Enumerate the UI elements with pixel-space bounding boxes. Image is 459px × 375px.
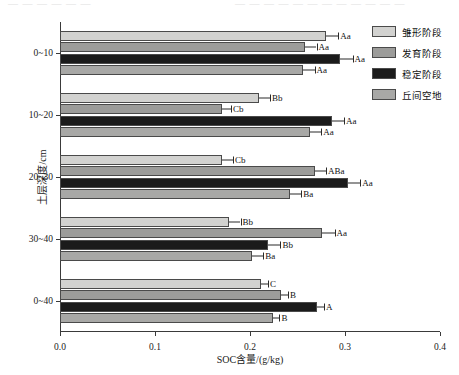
x-tick	[60, 332, 61, 336]
error-bar	[340, 58, 352, 59]
bar-2	[60, 302, 317, 312]
significance-letter: Cb	[235, 155, 246, 165]
x-tick	[155, 332, 156, 336]
soc-bar-chart: — — — — — — — — — — — — — — — — — — 0.00…	[0, 0, 459, 375]
significance-letter: C	[270, 279, 276, 289]
error-bar-cap	[241, 218, 242, 225]
error-bar-cap	[321, 129, 322, 136]
x-tick-label: 0.3	[339, 342, 351, 352]
error-bar-cap	[233, 156, 234, 163]
error-bar	[305, 47, 316, 48]
bar-1	[60, 228, 322, 238]
bar-row: A	[60, 302, 440, 312]
error-bar-cap	[344, 117, 345, 124]
bar-row: C	[60, 279, 440, 289]
error-bar-cap	[335, 230, 336, 237]
significance-letter: Aa	[355, 54, 366, 64]
bar-row: B	[60, 290, 440, 300]
bar-3	[60, 65, 303, 75]
error-bar-cap	[288, 292, 289, 299]
error-bar-cap	[324, 303, 325, 310]
error-bar	[222, 109, 232, 110]
significance-letter: Aa	[337, 228, 348, 238]
bar-2	[60, 54, 340, 64]
bar-1	[60, 290, 281, 300]
error-bar-cap	[280, 241, 281, 248]
legend-item[interactable]: 丘间空地	[372, 85, 458, 104]
bar-row: Ba	[60, 251, 440, 261]
x-tick-label: 0.1	[149, 342, 161, 352]
y-axis-title: 土层深度/cm	[34, 150, 49, 205]
chart-legend: 雏形阶段发育阶段稳定阶段丘间空地	[372, 22, 458, 106]
legend-swatch-3	[372, 89, 396, 100]
bar-0	[60, 279, 261, 289]
legend-swatch-1	[372, 47, 396, 58]
bar-row: Cb	[60, 155, 440, 165]
x-tick	[250, 332, 251, 336]
bar-2	[60, 116, 332, 126]
bar-row: Aa	[60, 178, 440, 188]
error-bar-cap	[317, 44, 318, 51]
legend-item[interactable]: 发育阶段	[372, 43, 458, 62]
error-bar	[317, 306, 324, 307]
x-tick-label: 0.0	[54, 342, 66, 352]
significance-letter: Ba	[303, 189, 313, 199]
significance-letter: A	[326, 302, 333, 312]
error-bar	[281, 295, 288, 296]
error-bar	[310, 132, 321, 133]
significance-letter: Aa	[319, 42, 330, 52]
x-axis-title: SOC含量/(g/kg)	[217, 351, 284, 366]
error-bar-cap	[301, 191, 302, 198]
error-bar	[322, 233, 334, 234]
bar-1	[60, 166, 315, 176]
legend-item[interactable]: 稳定阶段	[372, 64, 458, 83]
error-bar	[222, 159, 233, 160]
significance-letter: B	[290, 290, 296, 300]
bar-3	[60, 127, 310, 137]
error-bar-cap	[338, 32, 339, 39]
x-tick-label: 0.4	[434, 342, 446, 352]
y-category-label: 0~10	[34, 48, 53, 58]
error-bar-cap	[326, 168, 327, 175]
error-bar	[290, 194, 301, 195]
significance-letter: Bb	[282, 240, 293, 250]
bar-2	[60, 178, 348, 188]
significance-letter: Aa	[323, 127, 334, 137]
significance-letter: Ba	[265, 251, 275, 261]
legend-item[interactable]: 雏形阶段	[372, 22, 458, 41]
legend-swatch-2	[372, 68, 396, 79]
significance-letter: Aa	[317, 65, 328, 75]
error-bar	[268, 244, 280, 245]
error-bar-cap	[315, 67, 316, 74]
error-bar-cap	[360, 179, 361, 186]
significance-letter: Cb	[233, 104, 244, 114]
error-bar-cap	[353, 55, 354, 62]
error-bar	[261, 283, 268, 284]
bar-1	[60, 42, 305, 52]
bar-3	[60, 251, 252, 261]
significance-letter: ABa	[328, 166, 345, 176]
bar-row: B	[60, 313, 440, 323]
bar-row: Aa	[60, 116, 440, 126]
error-bar	[326, 35, 338, 36]
significance-letter: Aa	[346, 116, 357, 126]
significance-letter: B	[281, 313, 287, 323]
bar-0	[60, 31, 326, 41]
significance-letter: Aa	[340, 31, 351, 41]
x-tick	[345, 332, 346, 336]
error-bar	[273, 318, 280, 319]
error-bar-cap	[270, 94, 271, 101]
bar-row: ABa	[60, 166, 440, 176]
bar-row: Ba	[60, 189, 440, 199]
bar-0	[60, 217, 229, 227]
error-bar-cap	[268, 280, 269, 287]
bar-2	[60, 240, 268, 250]
legend-label: 丘间空地	[402, 88, 442, 102]
legend-label: 雏形阶段	[402, 25, 442, 39]
y-category-label: 30~40	[29, 234, 53, 244]
significance-letter: Bb	[272, 93, 283, 103]
significance-letter: Bb	[243, 217, 254, 227]
error-bar-cap	[263, 253, 264, 260]
error-bar	[259, 97, 270, 98]
error-bar	[303, 70, 314, 71]
